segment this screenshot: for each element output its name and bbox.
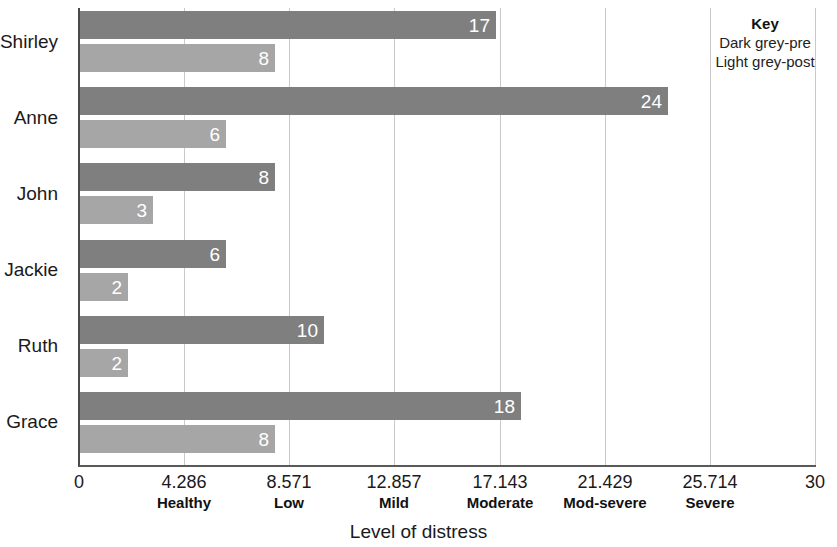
- category-label-john: John: [17, 183, 58, 205]
- gridline: [815, 8, 816, 465]
- category-label-shirley: Shirley: [0, 31, 58, 53]
- bar-post-grace: 8: [79, 425, 275, 453]
- x-tick-label: 12.857: [366, 472, 421, 493]
- x-tick-label: 17.143: [472, 472, 527, 493]
- legend-key: Key Dark grey-pre Light grey-post: [700, 14, 830, 72]
- x-axis-title: Level of distress: [0, 521, 837, 543]
- bar-value-label: 10: [297, 321, 318, 340]
- x-band-label-moderate: Moderate: [467, 494, 534, 511]
- bar-value-label: 2: [111, 278, 122, 297]
- bar-pre-grace: 18: [79, 392, 521, 420]
- bar-post-john: 3: [79, 196, 153, 224]
- bar-pre-anne: 24: [79, 87, 668, 115]
- x-band-label-healthy: Healthy: [157, 494, 211, 511]
- bar-value-label: 8: [258, 430, 269, 449]
- category-label-ruth: Ruth: [18, 335, 58, 357]
- bar-post-shirley: 8: [79, 44, 275, 72]
- x-axis-line: [79, 465, 816, 467]
- x-band-label-low: Low: [274, 494, 304, 511]
- bar-pre-jackie: 6: [79, 240, 226, 268]
- bar-pre-ruth: 10: [79, 316, 324, 344]
- x-band-label-severe: Severe: [685, 494, 734, 511]
- bar-value-label: 2: [111, 354, 122, 373]
- bar-pre-shirley: 17: [79, 11, 496, 39]
- bar-post-jackie: 2: [79, 273, 128, 301]
- bar-post-ruth: 2: [79, 349, 128, 377]
- gridline: [605, 8, 606, 465]
- bar-value-label: 6: [209, 245, 220, 264]
- x-tick-label: 4.286: [161, 472, 206, 493]
- x-tick-label: 25.714: [682, 472, 737, 493]
- legend-title: Key: [700, 14, 830, 33]
- bar-value-label: 24: [641, 92, 662, 111]
- category-label-grace: Grace: [6, 411, 58, 433]
- x-tick-label: 21.429: [577, 472, 632, 493]
- bar-pre-john: 8: [79, 163, 275, 191]
- bar-value-label: 8: [258, 168, 269, 187]
- x-band-label-mod-severe: Mod-severe: [563, 494, 646, 511]
- category-label-anne: Anne: [14, 107, 58, 129]
- gridline: [710, 8, 711, 465]
- bar-post-anne: 6: [79, 120, 226, 148]
- bar-value-label: 17: [469, 16, 490, 35]
- x-tick-label: 30: [805, 472, 825, 493]
- category-label-jackie: Jackie: [4, 259, 58, 281]
- bar-value-label: 8: [258, 49, 269, 68]
- bar-value-label: 6: [209, 125, 220, 144]
- legend-entry-post: Light grey-post: [700, 52, 830, 71]
- y-axis-line: [78, 8, 80, 467]
- horizontal-bar-chart: 1782468362102188 ShirleyAnneJohnJackieRu…: [0, 0, 837, 547]
- x-band-label-mild: Mild: [379, 494, 409, 511]
- legend-entry-pre: Dark grey-pre: [700, 33, 830, 52]
- bar-value-label: 18: [494, 397, 515, 416]
- x-tick-label: 0: [74, 472, 84, 493]
- bar-value-label: 3: [136, 201, 147, 220]
- x-tick-label: 8.571: [266, 472, 311, 493]
